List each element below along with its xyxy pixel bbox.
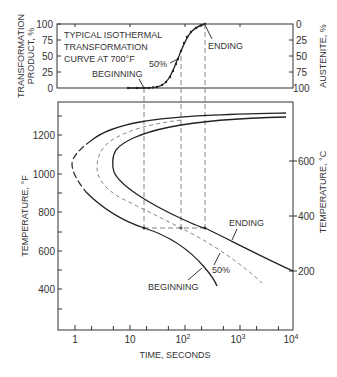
curve-beginning-upper (92, 113, 286, 140)
top-title-line3: CURVE AT 700°F (64, 54, 135, 64)
top-right-tick-100: 100 (293, 83, 310, 94)
top-left-tick-25: 25 (42, 67, 54, 78)
curve-ending (113, 117, 293, 271)
y-left-tick-400: 400 (38, 284, 55, 295)
top-left-tick-0: 0 (47, 83, 53, 94)
ttt-diagram: 100 75 50 25 0 0 25 50 75 100 TRANSFORMA… (0, 0, 337, 377)
annotation-ending: ENDING (229, 218, 264, 228)
beginning-leader (188, 268, 202, 280)
top-ending-leader (205, 25, 212, 39)
x-ticks (75, 325, 278, 330)
top-right-tick-75: 75 (296, 67, 308, 78)
x-axis-label: TIME, SECONDS (139, 350, 210, 360)
x-tick-10: 10 (124, 334, 136, 345)
y-left-tick-600: 600 (38, 246, 55, 257)
ending-leader (232, 229, 237, 240)
y-right-tick-400: 400 (298, 211, 315, 222)
x-tick-100: 102 (175, 333, 190, 345)
top-left-tick-75: 75 (42, 35, 54, 46)
x-tick-1000: 103 (230, 333, 245, 345)
y-left-tick-1200: 1200 (33, 130, 56, 141)
main-chart: 1200 1000 800 600 400 600 400 200 TEMPER… (20, 102, 328, 360)
top-right-tick-25: 25 (296, 35, 308, 46)
top-right-axis-label: AUSTENITE, % (318, 24, 328, 88)
y-left-axis-label: TEMPERATURE, °F (20, 175, 30, 257)
curve-beginning-nose (72, 140, 92, 192)
top-right-tick-0: 0 (296, 19, 302, 30)
top-beginning-leader (139, 79, 144, 88)
top-annotation-beginning: BEGINNING (92, 69, 143, 79)
top-annotation-50: 50% (149, 59, 167, 69)
top-left-axis-label-line2: PRODUCT, % (26, 28, 36, 85)
main-left-ticks (58, 116, 62, 309)
annotation-beginning: BEGINNING (148, 282, 199, 292)
top-chart: 100 75 50 25 0 0 25 50 75 100 TRANSFORMA… (16, 14, 328, 98)
x-tick-10000: 104 (283, 333, 298, 345)
top-annotation-ending: ENDING (208, 41, 243, 51)
y-left-tick-1000: 1000 (33, 169, 56, 180)
y-right-tick-600: 600 (298, 156, 315, 167)
top-left-tick-50: 50 (42, 51, 54, 62)
y-left-tick-800: 800 (38, 207, 55, 218)
top-left-tick-100: 100 (36, 19, 53, 30)
top-title-line1: TYPICAL ISOTHERMAL (64, 30, 162, 40)
y-right-tick-200: 200 (298, 266, 315, 277)
top-title-line2: TRANSFORMATION (64, 42, 148, 52)
y-right-axis-label: TEMPERATURE, °C (318, 150, 328, 233)
top-right-tick-50: 50 (296, 51, 308, 62)
top-left-axis-label-line1: TRANSFORMATION (16, 14, 26, 98)
annotation-50: 50% (212, 265, 230, 275)
x-tick-1: 1 (72, 334, 78, 345)
fifty-leader (214, 253, 220, 265)
